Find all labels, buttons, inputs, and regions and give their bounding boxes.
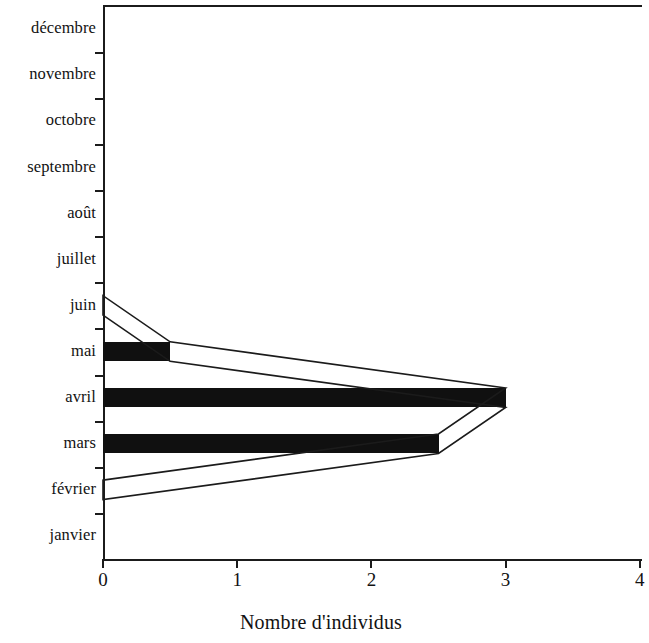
bar	[103, 434, 439, 454]
y-axis-label-septembre: septembre	[27, 159, 96, 176]
y-axis-label-octobre: octobre	[46, 112, 96, 129]
bar	[103, 342, 170, 362]
x-axis-label: 4	[620, 570, 649, 589]
x-axis-tick	[505, 559, 507, 568]
y-axis-label-février: février	[51, 481, 96, 498]
y-axis-label-novembre: novembre	[29, 66, 96, 83]
x-axis-label: 0	[83, 570, 123, 589]
x-axis-tick	[639, 559, 641, 568]
y-axis-label-juin: juin	[70, 297, 96, 314]
y-axis-label-avril: avril	[65, 389, 96, 406]
bar	[103, 388, 506, 408]
y-axis-label-décembre: décembre	[31, 20, 96, 37]
x-axis-tick	[102, 559, 104, 568]
y-axis-label-août: août	[67, 205, 96, 222]
x-axis-tick	[370, 559, 372, 568]
x-axis-label: 3	[486, 570, 526, 589]
x-axis-label: 2	[351, 570, 391, 589]
plot-area	[103, 5, 642, 560]
x-axis-label: 1	[217, 570, 257, 589]
y-axis-label-mai: mai	[71, 343, 96, 360]
y-axis-label-mars: mars	[64, 435, 96, 452]
x-axis-tick	[236, 559, 238, 568]
x-axis-line	[103, 559, 642, 561]
y-axis-label-juillet: juillet	[57, 251, 96, 268]
x-axis-title: Nombre d'individus	[0, 612, 642, 632]
y-axis-label-janvier: janvier	[49, 527, 96, 544]
